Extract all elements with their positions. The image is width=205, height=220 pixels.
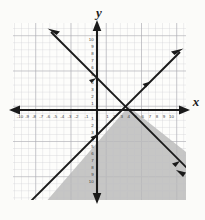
y-tick-label: 10	[89, 179, 94, 184]
x-tick-label: -7	[39, 114, 43, 119]
x-tick-label: -4	[60, 114, 64, 119]
coordinate-plane-svg: -10 -9 -8 -7 -6 -5 -4 -3 -2 -1 1 2 3 4 5…	[0, 0, 205, 220]
x-tick-label: -2	[74, 114, 78, 119]
x-tick-label: -9	[25, 114, 29, 119]
x-tick-label: -10	[17, 114, 24, 119]
y-tick-label: 10	[89, 37, 94, 42]
x-tick-label: -3	[67, 114, 71, 119]
x-axis-label: x	[192, 94, 200, 109]
graph-figure: -10 -9 -8 -7 -6 -5 -4 -3 -2 -1 1 2 3 4 5…	[0, 0, 205, 220]
y-axis-label: y	[94, 5, 102, 20]
x-tick-label: 10	[169, 114, 174, 119]
x-tick-label: -1	[85, 114, 89, 119]
x-tick-label: -8	[32, 114, 36, 119]
x-tick-label: -6	[46, 114, 50, 119]
x-tick-label: -5	[53, 114, 57, 119]
